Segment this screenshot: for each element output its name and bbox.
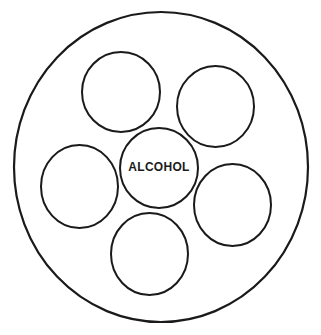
satellite-circle-bottom [111,213,188,295]
alcohol-circle-diagram: ALCOHOL [0,0,321,335]
satellite-circle-top-left [82,52,160,132]
satellite-circle-top-right [177,66,254,147]
satellite-circle-right [194,164,271,246]
center-label: ALCOHOL [128,160,189,174]
satellite-circle-left [41,145,118,228]
